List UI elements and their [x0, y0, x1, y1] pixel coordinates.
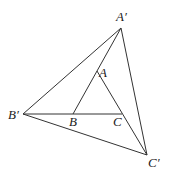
label-a-prime: A′ — [115, 9, 127, 24]
segment-a-c-prime — [97, 71, 147, 155]
geometry-diagram: A′ A B′ B C C′ — [0, 0, 171, 177]
segment-a-prime-c-prime — [121, 28, 147, 155]
label-a: A — [98, 65, 107, 80]
segment-b-prime-c-prime — [23, 114, 147, 155]
point-labels: A′ A B′ B C C′ — [8, 9, 160, 170]
label-b: B — [69, 114, 77, 129]
segments — [23, 28, 147, 155]
label-c: C — [113, 114, 122, 129]
label-c-prime: C′ — [148, 155, 160, 170]
label-b-prime: B′ — [8, 107, 19, 122]
